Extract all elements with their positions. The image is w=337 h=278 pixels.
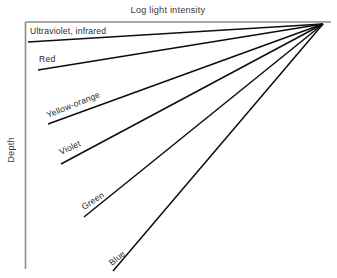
ray-label-red: Red <box>39 54 55 64</box>
chart-canvas: Log light intensity Depth Ultraviolet, i… <box>0 0 337 278</box>
ray-label-ultraviolet-infrared: Ultraviolet, infrared <box>30 26 106 36</box>
chart-title: Log light intensity <box>131 5 206 15</box>
ray-label-blue: Blue <box>107 248 127 267</box>
light-attenuation-figure: Log light intensity Depth Ultraviolet, i… <box>0 0 337 278</box>
ray-green <box>84 24 323 217</box>
y-axis-title: Depth <box>6 137 16 163</box>
ray-blue <box>113 24 323 271</box>
ray-label-green: Green <box>80 190 106 212</box>
ray-label-group: Ultraviolet, infrared Red Yellow-orange … <box>30 26 127 268</box>
